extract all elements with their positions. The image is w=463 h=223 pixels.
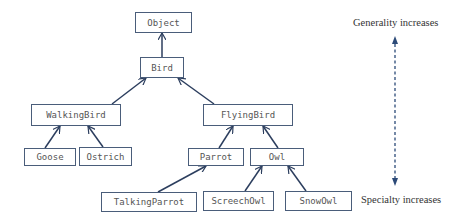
edge-talkingparrot-parrot <box>158 166 206 192</box>
class-hierarchy-diagram: Object Bird WalkingBird FlyingBird Goose… <box>0 0 463 223</box>
node-talkingparrot: TalkingParrot <box>101 192 197 212</box>
edge-snowowl-owl <box>288 166 306 191</box>
node-parrot: Parrot <box>188 148 244 166</box>
node-label: Object <box>147 18 180 28</box>
node-goose: Goose <box>24 148 76 166</box>
edge-screechowl-owl <box>245 166 262 191</box>
node-flyingbird: FlyingBird <box>203 104 293 126</box>
edge-owl-flyingbird <box>263 126 278 148</box>
specialty-label: Specialty increases <box>361 194 441 205</box>
node-ostrich: Ostrich <box>79 147 132 166</box>
node-label: SnowOwl <box>300 196 338 206</box>
node-label: TalkingParrot <box>114 197 184 207</box>
node-label: ScreechOwl <box>211 196 265 206</box>
edge-walkingbird-bird <box>112 78 146 104</box>
node-screechowl: ScreechOwl <box>203 191 274 211</box>
axis-up-arrowhead-icon <box>392 36 398 44</box>
edge-flyingbird-bird <box>178 78 214 104</box>
node-label: Bird <box>151 63 173 73</box>
node-label: Parrot <box>200 152 233 162</box>
node-label: WalkingBird <box>46 110 106 120</box>
node-label: Goose <box>36 152 63 162</box>
node-bird: Bird <box>140 57 184 78</box>
node-label: Owl <box>269 152 285 162</box>
edge-ostrich-walkingbird <box>88 126 103 147</box>
edge-goose-walkingbird <box>45 126 60 148</box>
axis-down-arrowhead-icon <box>392 178 398 186</box>
edge-parrot-flyingbird <box>219 126 233 148</box>
node-label: Ostrich <box>87 152 125 162</box>
node-label: FlyingBird <box>221 110 275 120</box>
generality-label: Generality increases <box>353 17 438 28</box>
node-object: Object <box>135 12 192 33</box>
node-owl: Owl <box>250 148 304 166</box>
node-snowowl: SnowOwl <box>285 191 352 211</box>
node-walkingbird: WalkingBird <box>31 104 121 126</box>
